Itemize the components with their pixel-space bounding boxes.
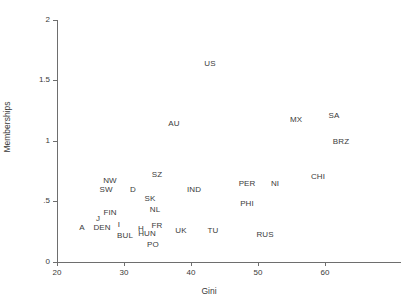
data-point-mx: MX: [290, 116, 302, 124]
data-point-rus: RUS: [256, 231, 273, 239]
data-point-hun: HUN: [138, 230, 156, 238]
x-tick-mark: [258, 262, 259, 266]
data-point-brz: BRZ: [333, 138, 349, 146]
data-point-i: I: [118, 221, 120, 229]
data-point-nw: NW: [103, 177, 117, 185]
y-tick-label: .5: [24, 197, 50, 205]
data-point-j: J: [96, 215, 100, 223]
data-point-po: PO: [147, 241, 159, 249]
x-tick-mark: [124, 262, 125, 266]
data-point-phi: PHI: [240, 200, 254, 208]
data-point-den: DEN: [93, 224, 110, 232]
data-point-bul: BUL: [117, 232, 133, 240]
data-point-d: D: [130, 186, 136, 194]
y-tick-mark: [53, 20, 57, 21]
data-point-us: US: [204, 60, 215, 68]
x-tick-label: 30: [109, 269, 139, 277]
y-tick-mark: [53, 80, 57, 81]
y-axis-line: [57, 20, 58, 263]
x-tick-label: 60: [310, 269, 340, 277]
data-point-au: AU: [168, 120, 179, 128]
data-point-sa: SA: [329, 112, 340, 120]
y-tick-mark: [53, 201, 57, 202]
scatter-chart: 0.511.52 2030405060 Memberships Gini USS…: [0, 0, 418, 303]
data-point-sw: SW: [99, 186, 112, 194]
y-tick-label: 0: [24, 258, 50, 266]
data-point-sk: SK: [145, 195, 156, 203]
data-point-tu: TU: [208, 227, 219, 235]
x-tick-mark: [191, 262, 192, 266]
data-point-sz: SZ: [152, 171, 162, 179]
x-tick-mark: [325, 262, 326, 266]
data-point-chi: CHI: [311, 173, 325, 181]
y-tick-label: 1: [24, 137, 50, 145]
data-point-per: PER: [239, 180, 256, 188]
y-axis-title: Memberships: [2, 87, 12, 167]
y-tick-mark: [53, 141, 57, 142]
data-point-uk: UK: [175, 227, 186, 235]
x-axis-line: [57, 262, 401, 263]
y-tick-label: 2: [24, 16, 50, 24]
x-tick-label: 40: [176, 269, 206, 277]
x-tick-label: 20: [42, 269, 72, 277]
data-point-a: A: [79, 224, 84, 232]
data-point-ind: IND: [187, 186, 201, 194]
x-axis-title: Gini: [0, 286, 418, 296]
x-tick-label: 50: [243, 269, 273, 277]
data-point-nl: NL: [150, 206, 160, 214]
data-point-fin: FIN: [103, 209, 116, 217]
x-tick-mark: [57, 262, 58, 266]
y-tick-label: 1.5: [24, 76, 50, 84]
data-point-ni: NI: [271, 180, 279, 188]
